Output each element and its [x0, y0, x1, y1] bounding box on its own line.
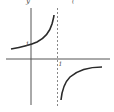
- y-axis-label: y: [25, 0, 31, 5]
- top-label-fragment: (: [72, 0, 75, 4]
- curve-left-branch: [11, 15, 54, 49]
- curve-right-branch: [61, 67, 102, 100]
- y-tick-label-1: 1: [26, 40, 30, 47]
- x-tick-label-1: 1: [59, 60, 63, 67]
- function-graph: 1 1 y (: [0, 0, 114, 112]
